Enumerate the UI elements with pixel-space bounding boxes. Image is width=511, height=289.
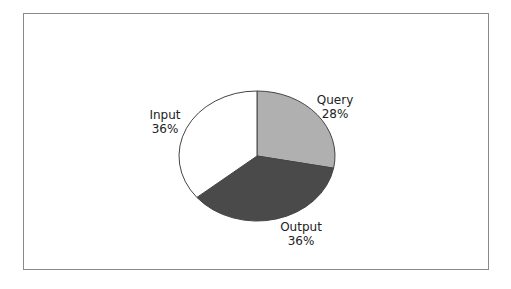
label-query: Query28% — [310, 93, 360, 121]
pie-chart — [0, 0, 511, 289]
label-output: Output36% — [276, 220, 326, 248]
label-input: Input36% — [140, 108, 190, 136]
